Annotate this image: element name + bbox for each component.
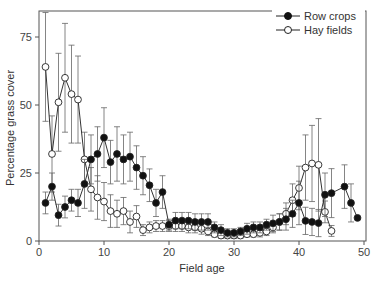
data-point bbox=[283, 216, 290, 223]
data-point bbox=[179, 217, 186, 224]
data-point bbox=[146, 224, 153, 231]
data-point bbox=[159, 189, 166, 196]
data-point bbox=[127, 153, 134, 160]
data-point bbox=[231, 229, 238, 236]
data-point bbox=[185, 217, 192, 224]
data-point bbox=[120, 156, 127, 163]
data-point bbox=[237, 228, 244, 235]
data-point bbox=[263, 221, 270, 228]
data-point bbox=[127, 219, 134, 226]
x-tick-label: 50 bbox=[358, 246, 370, 258]
x-tick-label: 20 bbox=[163, 246, 175, 258]
data-point bbox=[94, 151, 101, 158]
data-point bbox=[107, 208, 114, 215]
legend-row-crops-label: Row crops bbox=[304, 10, 356, 22]
data-point bbox=[341, 183, 348, 190]
data-point bbox=[133, 164, 140, 171]
data-point bbox=[68, 197, 75, 204]
data-point bbox=[322, 191, 329, 198]
data-point bbox=[101, 198, 108, 205]
series-layer bbox=[42, 13, 361, 239]
data-point bbox=[309, 219, 316, 226]
data-point bbox=[101, 134, 108, 141]
chart: 010203040500255075 Field age Percentage … bbox=[0, 0, 377, 282]
y-tick-label: 25 bbox=[20, 167, 32, 179]
data-point bbox=[244, 225, 251, 232]
data-point bbox=[270, 220, 277, 227]
y-tick-label: 0 bbox=[26, 235, 32, 247]
data-point bbox=[55, 212, 62, 219]
series-row-crops bbox=[42, 108, 361, 237]
data-point bbox=[42, 64, 49, 71]
data-point bbox=[159, 223, 166, 230]
data-point bbox=[166, 221, 173, 228]
plot-frame bbox=[39, 11, 366, 241]
data-point bbox=[276, 219, 283, 226]
data-point bbox=[198, 219, 205, 226]
legend: Row crops Hay fields bbox=[272, 5, 365, 39]
data-point bbox=[289, 210, 296, 217]
series-line bbox=[46, 67, 332, 236]
data-point bbox=[75, 200, 82, 207]
data-point bbox=[49, 183, 56, 190]
data-point bbox=[107, 159, 114, 166]
data-point bbox=[315, 161, 322, 168]
data-point bbox=[153, 223, 160, 230]
data-point bbox=[348, 200, 355, 207]
data-point bbox=[218, 227, 225, 234]
data-point bbox=[114, 210, 121, 217]
legend-hay-fields-marker bbox=[285, 27, 292, 34]
data-point bbox=[62, 74, 69, 81]
data-point bbox=[62, 204, 69, 211]
y-tick-label: 75 bbox=[20, 31, 32, 43]
data-point bbox=[309, 160, 316, 167]
data-point bbox=[120, 208, 127, 215]
x-tick-label: 10 bbox=[98, 246, 110, 258]
x-axis-label: Field age bbox=[179, 262, 224, 274]
data-point bbox=[146, 182, 153, 189]
data-point bbox=[250, 224, 257, 231]
data-point bbox=[192, 219, 199, 226]
x-tick-label: 0 bbox=[36, 246, 42, 258]
y-axis-label: Percentage grass cover bbox=[4, 70, 16, 187]
data-point bbox=[114, 151, 121, 158]
data-point bbox=[328, 228, 335, 235]
legend-row-crops-marker bbox=[285, 13, 292, 20]
data-point bbox=[302, 217, 309, 224]
data-point bbox=[88, 156, 95, 163]
data-point bbox=[81, 180, 88, 187]
data-point bbox=[211, 224, 218, 231]
data-point bbox=[42, 200, 49, 207]
data-point bbox=[133, 213, 140, 220]
x-tick-label: 40 bbox=[293, 246, 305, 258]
legend-hay-fields-label: Hay fields bbox=[304, 24, 353, 36]
data-point bbox=[328, 190, 335, 197]
data-point bbox=[315, 220, 322, 227]
data-point bbox=[94, 194, 101, 201]
data-point bbox=[55, 99, 62, 106]
data-point bbox=[172, 217, 179, 224]
x-tick-label: 30 bbox=[228, 246, 240, 258]
data-point bbox=[224, 229, 231, 236]
data-point bbox=[205, 219, 212, 226]
data-point bbox=[140, 227, 147, 234]
plot-border bbox=[39, 11, 366, 241]
data-point bbox=[296, 200, 303, 207]
y-tick-label: 50 bbox=[20, 99, 32, 111]
data-point bbox=[153, 200, 160, 207]
data-point bbox=[75, 96, 82, 103]
data-point bbox=[257, 224, 264, 231]
data-point bbox=[49, 151, 56, 158]
data-point bbox=[302, 164, 309, 171]
data-point bbox=[68, 91, 75, 98]
data-point bbox=[88, 186, 95, 193]
data-point bbox=[140, 172, 147, 179]
data-point bbox=[354, 214, 361, 221]
series-hay-fields bbox=[42, 13, 335, 239]
